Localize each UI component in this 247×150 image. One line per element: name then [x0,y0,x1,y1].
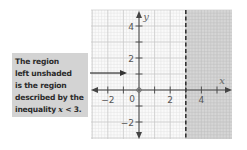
callout-inequality-prefix: inequality [15,105,58,114]
callout-line-3: is the region [15,80,88,92]
x-tick-label: −2 [101,95,114,105]
callout-line-1: The region [15,56,88,68]
origin-label: 0 [129,94,135,104]
callout-line-2: left unshaded [15,68,88,80]
annotation-callout: The region left unshaded is the region d… [12,53,88,117]
x-tick-label: 2 [167,95,173,105]
y-tick-label: −2 [121,118,134,128]
y-tick-label: 4 [128,22,134,32]
x-axis-label: x [219,75,225,86]
callout-inequality-rest: < 3. [63,105,82,114]
y-axis-label: y [142,11,149,22]
callout-line-4: described by the [15,92,88,104]
x-tick-label: 4 [199,95,205,105]
callout-line-5: inequality x < 3. [15,104,88,116]
y-tick-label: 2 [128,54,134,64]
